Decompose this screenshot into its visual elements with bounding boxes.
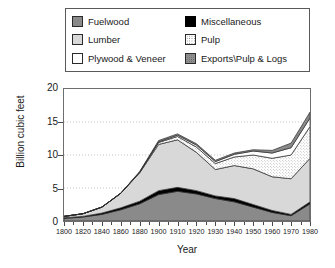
x-tick-mark (121, 222, 122, 226)
x-tick-mark (272, 222, 273, 226)
x-tick-mark-minor (130, 222, 131, 225)
legend-swatch-pulp-icon (185, 34, 196, 45)
legend-label-lumber: Lumber (88, 34, 120, 45)
x-tick-label: 1900 (151, 228, 167, 236)
x-tick-mark-minor (73, 222, 74, 225)
x-tick-mark (102, 222, 103, 226)
x-tick-label: 1860 (113, 228, 129, 236)
x-tick-mark (291, 222, 292, 226)
x-tick-label: 1840 (94, 228, 110, 236)
y-tick-label: 5 (38, 184, 58, 194)
chart-plot-region: Billion cubic feet 05101520 180018201840… (0, 80, 335, 268)
x-tick-mark (83, 222, 84, 226)
legend-label-miscellaneous: Miscellaneous (201, 16, 261, 27)
plot-frame (63, 88, 311, 222)
x-tick-label: 1970 (283, 228, 299, 236)
x-tick-mark-minor (149, 222, 150, 225)
x-tick-mark-minor (225, 222, 226, 225)
y-tick-mark (58, 122, 63, 123)
x-tick-mark-minor (92, 222, 93, 225)
x-tick-mark (64, 222, 65, 226)
x-tick-mark-minor (206, 222, 207, 225)
x-tick-mark-minor (301, 222, 302, 225)
x-tick-label: 1940 (226, 228, 242, 236)
y-tick-mark (58, 189, 63, 190)
x-tick-mark-minor (244, 222, 245, 225)
legend-swatch-fuelwood-icon (72, 16, 83, 27)
legend-label-exports: Exports\Pulp & Logs (201, 53, 287, 64)
x-tick-mark-minor (282, 222, 283, 225)
x-tick-label: 1910 (170, 228, 186, 236)
x-tick-mark-minor (168, 222, 169, 225)
x-tick-label: 1950 (245, 228, 261, 236)
legend-label-pulp: Pulp (201, 34, 220, 45)
legend-swatch-lumber-icon (72, 34, 83, 45)
x-tick-mark-minor (187, 222, 188, 225)
x-tick-label: 1820 (75, 228, 91, 236)
legend-item-plywood-veneer: Plywood & Veneer (72, 49, 185, 68)
x-tick-label: 1800 (56, 228, 72, 236)
x-tick-mark-minor (111, 222, 112, 225)
y-axis-tick-labels: 05101520 (36, 80, 58, 230)
legend-item-pulp: Pulp (185, 31, 313, 50)
x-tick-label: 1960 (264, 228, 280, 236)
area-series-group (64, 112, 310, 221)
x-tick-mark (159, 222, 160, 226)
y-tick-mark (58, 155, 63, 156)
x-tick-mark (196, 222, 197, 226)
x-tick-mark (310, 222, 311, 226)
y-tick-label: 10 (38, 150, 58, 160)
y-tick-label: 15 (38, 117, 58, 127)
x-axis-title: Year (63, 244, 311, 255)
legend-item-miscellaneous: Miscellaneous (185, 12, 313, 31)
legend-swatch-exports-icon (185, 53, 196, 64)
y-axis-title: Billion cubic feet (15, 72, 26, 192)
x-tick-mark (215, 222, 216, 226)
x-tick-label: 1980 (302, 228, 318, 236)
x-tick-mark (140, 222, 141, 226)
legend-item-exports: Exports\Pulp & Logs (185, 49, 313, 68)
y-tick-label: 20 (38, 83, 58, 93)
y-tick-label: 0 (38, 217, 58, 227)
stacked-area-svg (64, 89, 310, 221)
legend-label-plywood-veneer: Plywood & Veneer (88, 53, 166, 64)
x-tick-mark (234, 222, 235, 226)
x-tick-label: 1920 (188, 228, 204, 236)
x-tick-mark (178, 222, 179, 226)
x-tick-mark (253, 222, 254, 226)
x-tick-mark-minor (263, 222, 264, 225)
legend-label-fuelwood: Fuelwood (88, 16, 129, 27)
x-tick-label: 1880 (132, 228, 148, 236)
x-tick-label: 1930 (207, 228, 223, 236)
legend-item-fuelwood: Fuelwood (72, 12, 185, 31)
chart-legend: Fuelwood Miscellaneous Lumber Pulp Plywo… (65, 8, 310, 72)
legend-item-lumber: Lumber (72, 31, 185, 50)
legend-swatch-miscellaneous-icon (185, 16, 196, 27)
legend-swatch-plywood-veneer-icon (72, 53, 83, 64)
x-axis-tick-labels: 1800182018401860188019001910192019301940… (63, 222, 311, 232)
